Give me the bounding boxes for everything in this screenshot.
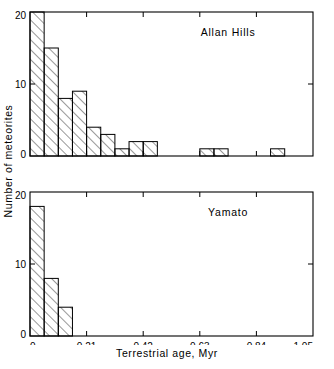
x-tick-label: 0.21 bbox=[77, 341, 97, 345]
histogram-bar bbox=[44, 48, 58, 156]
histogram-bar bbox=[129, 142, 143, 156]
histogram-bar bbox=[44, 278, 58, 336]
histogram-bar bbox=[115, 149, 129, 156]
histogram-bar bbox=[143, 142, 157, 156]
bar-hatch-fill bbox=[58, 307, 72, 336]
bar-hatch-fill bbox=[44, 278, 58, 336]
histogram-bar bbox=[58, 98, 72, 156]
x-tick-label: 0.84 bbox=[247, 341, 267, 345]
x-axis-label: Terrestrial age, Myr bbox=[0, 347, 334, 359]
bar-hatch-fill bbox=[115, 149, 129, 156]
bar-hatch-fill bbox=[129, 142, 143, 156]
x-tick-label: 1.05 bbox=[294, 341, 314, 345]
bar-hatch-fill bbox=[30, 206, 44, 336]
histogram-bar bbox=[87, 127, 101, 156]
bar-hatch-fill bbox=[44, 48, 58, 156]
x-tick-label: 0 bbox=[30, 341, 36, 345]
histogram-bar bbox=[214, 149, 228, 156]
bar-hatch-fill bbox=[101, 134, 115, 156]
y-axis-label-container: Number of meteorites bbox=[0, 0, 18, 330]
histogram-figure: Number of meteorites 01020Allan Hills 00… bbox=[0, 0, 334, 369]
panel-title: Yamato bbox=[208, 206, 248, 218]
bar-hatch-fill bbox=[58, 98, 72, 156]
histogram-bar bbox=[58, 307, 72, 336]
panel-title: Allan Hills bbox=[201, 26, 256, 38]
bar-hatch-fill bbox=[200, 149, 214, 156]
histogram-bar bbox=[30, 206, 44, 336]
panel-allan-hills: 01020Allan Hills bbox=[15, 10, 313, 160]
y-tick-label: 0 bbox=[20, 149, 26, 160]
histogram-bar bbox=[101, 134, 115, 156]
bar-hatch-fill bbox=[214, 149, 228, 156]
bar-hatch-fill bbox=[143, 142, 157, 156]
histogram-bar bbox=[72, 91, 86, 156]
y-tick-label: 0 bbox=[20, 329, 26, 340]
bar-hatch-fill bbox=[271, 149, 285, 156]
plot-area: 01020Allan Hills 00.210.420.630.841.0501… bbox=[0, 0, 334, 345]
panel-yamato: 00.210.420.630.841.0501020Yamato bbox=[15, 190, 314, 345]
bar-hatch-fill bbox=[72, 91, 86, 156]
x-tick-label: 0.63 bbox=[190, 341, 210, 345]
x-tick-label: 0.42 bbox=[133, 341, 153, 345]
histogram-bar bbox=[271, 149, 285, 156]
histogram-bar bbox=[200, 149, 214, 156]
bar-hatch-fill bbox=[87, 127, 101, 156]
y-axis-label: Number of meteorites bbox=[2, 61, 14, 261]
